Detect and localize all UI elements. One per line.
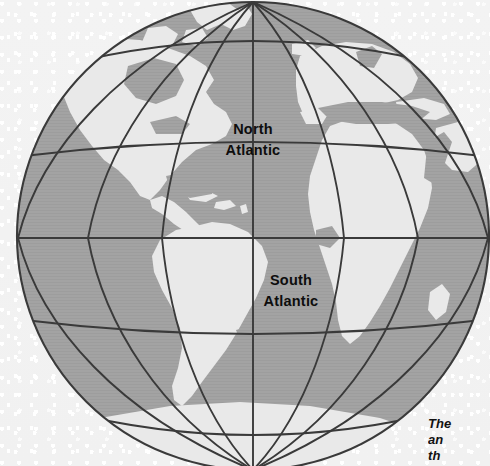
south-atlantic-label-line2: Atlantic <box>264 293 319 309</box>
caption-line-1: The <box>428 416 490 432</box>
north-atlantic-label-line1: North <box>233 121 273 137</box>
caption-line-3: th <box>428 448 490 464</box>
figure-caption: The an th <box>428 416 490 464</box>
south-atlantic-label-line1: South <box>270 272 312 288</box>
caption-line-2: an <box>428 432 490 448</box>
globe-map-svg: North Atlantic South Atlantic <box>0 0 490 466</box>
north-atlantic-label-line2: Atlantic <box>226 142 281 158</box>
persian-gulf-shape <box>468 122 488 140</box>
globe-figure: North Atlantic South Atlantic The an th <box>0 0 490 466</box>
